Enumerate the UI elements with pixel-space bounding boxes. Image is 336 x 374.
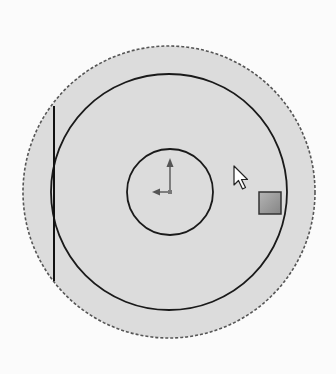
sketch-viewport[interactable] — [0, 0, 336, 374]
drag-handle-square[interactable] — [259, 192, 281, 214]
sketch-drawing[interactable] — [0, 0, 336, 374]
